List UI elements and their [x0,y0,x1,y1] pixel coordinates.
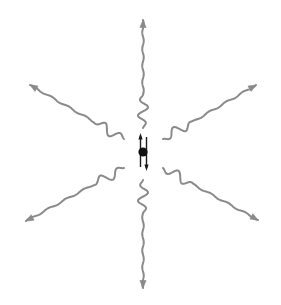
source-dot [138,147,147,156]
radiation-diagram-figure [0,0,281,305]
diagram-canvas [0,0,281,305]
source-group [138,147,147,156]
